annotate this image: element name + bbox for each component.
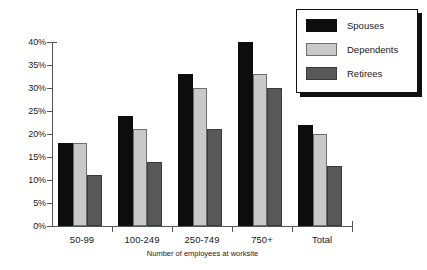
legend-label-spouses: Spouses — [347, 19, 384, 32]
chart-legend: Spouses Dependents Retirees — [296, 9, 418, 93]
bar-dependents-750+ — [253, 74, 268, 226]
y-axis-tick-label: 40% — [28, 38, 46, 47]
y-axis-tick-label: 20% — [28, 130, 46, 139]
x-axis-tick — [352, 227, 353, 232]
x-axis-tick-label: 250-749 — [172, 234, 232, 245]
y-axis-tick-label: 10% — [28, 176, 46, 185]
legend-swatch-icon-spouses — [306, 19, 337, 32]
bar-dependents-Total — [313, 134, 328, 226]
x-axis-tick-label: Total — [292, 234, 352, 245]
y-axis-tick-label: 15% — [28, 153, 46, 162]
bar-spouses-250-749 — [178, 74, 193, 226]
x-axis-tick — [172, 227, 173, 232]
legend-label-dependents: Dependents — [347, 43, 398, 56]
bar-chart: 0%5%10%15%20%25%30%35%40% 50-99100-24925… — [0, 0, 427, 270]
x-axis-tick — [112, 227, 113, 232]
legend-swatch-icon-dependents — [306, 43, 337, 56]
bar-retirees-50-99 — [87, 175, 102, 226]
legend-swatch-icon-retirees — [306, 67, 337, 80]
x-axis-tick-label: 100-249 — [112, 234, 172, 245]
x-axis-tick-label: 750+ — [232, 234, 292, 245]
x-axis-title: Number of employees at worksite — [52, 249, 353, 258]
bar-retirees-100-249 — [147, 162, 162, 226]
legend-label-retirees: Retirees — [347, 67, 382, 80]
bar-dependents-50-99 — [73, 143, 88, 226]
bar-retirees-250-749 — [207, 129, 222, 226]
bar-spouses-50-99 — [58, 143, 73, 226]
bar-retirees-750+ — [267, 88, 282, 226]
bar-dependents-250-749 — [193, 88, 208, 226]
y-axis-tick-label: 25% — [28, 107, 46, 116]
bar-spouses-750+ — [238, 42, 253, 226]
x-axis-line — [52, 226, 353, 227]
x-axis-tick-label: 50-99 — [52, 234, 112, 245]
y-axis-tick-label: 5% — [33, 199, 46, 208]
x-axis-tick — [232, 227, 233, 232]
y-axis-tick-label: 30% — [28, 84, 46, 93]
bar-spouses-Total — [298, 125, 313, 226]
bar-spouses-100-249 — [118, 116, 133, 226]
x-axis-tick — [292, 227, 293, 232]
bar-dependents-100-249 — [133, 129, 148, 226]
y-axis-tick-label: 35% — [28, 61, 46, 70]
y-axis-tick — [47, 226, 52, 227]
y-axis-tick-label: 0% — [33, 222, 46, 231]
bar-retirees-Total — [327, 166, 342, 226]
